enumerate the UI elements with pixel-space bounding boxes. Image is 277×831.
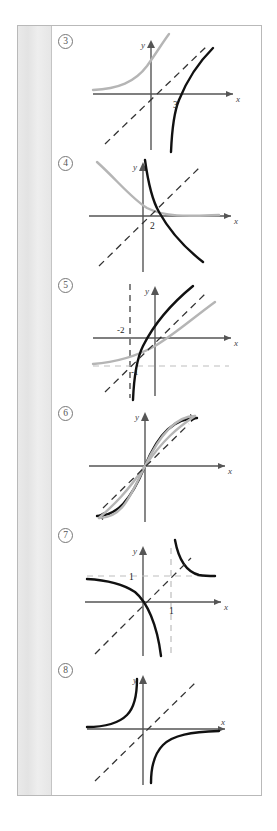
figure-item-5[interactable]: 5 x y -2 -1 <box>53 276 263 404</box>
figure-item-6[interactable]: 6 x y <box>53 404 263 526</box>
figure-item-3[interactable]: 3 x y 3 <box>53 32 263 154</box>
hyperbola-branch-upper-7 <box>175 540 215 576</box>
figure-marker-8: 8 <box>58 663 73 678</box>
figure-graph-3: x y 3 <box>73 32 263 154</box>
figure-item-8[interactable]: 8 x y <box>53 661 263 791</box>
figure-item-7[interactable]: 7 x y 1 1 <box>53 526 263 661</box>
x-axis-label-6: x <box>227 466 232 476</box>
tick-label-5-b: -1 <box>131 367 139 377</box>
x-axis-label-5: x <box>233 338 238 348</box>
worksheet-page: 3 x y 3 <box>17 25 262 796</box>
tick-label-7-a: 1 <box>129 572 134 582</box>
y-axis-label-5: y <box>144 286 149 296</box>
y-axis-label-3: y <box>140 40 145 50</box>
figure-marker-5: 5 <box>58 278 73 293</box>
x-axis-label-7: x <box>223 602 228 612</box>
x-axis-label-4: x <box>233 216 238 226</box>
figure-item-4[interactable]: 4 x y 2 <box>53 154 263 276</box>
figure-marker-4: 4 <box>58 156 73 171</box>
y-axis-label-7: y <box>132 546 137 556</box>
tick-label-4-a: 2 <box>150 221 155 231</box>
figure-graph-6: x y <box>73 404 263 526</box>
hyperbola-branch-lower-right-8 <box>151 731 219 783</box>
figure-marker-7: 7 <box>58 528 73 543</box>
page-footer-note <box>22 806 172 820</box>
figure-graph-8: x y <box>73 661 263 791</box>
figure-graph-5: x y -2 -1 <box>73 276 263 404</box>
axes-4: x y <box>89 162 238 272</box>
curve-gray-5 <box>93 302 215 364</box>
tick-label-7-b: 1 <box>169 606 174 616</box>
hyperbola-branch-lower-7 <box>87 579 161 656</box>
curve-black-6 <box>97 418 197 516</box>
identity-line-8 <box>95 683 195 781</box>
curve-gray-3 <box>93 34 169 90</box>
curve-black-5 <box>133 286 193 400</box>
y-axis-label-6: y <box>134 412 139 422</box>
figure-graph-4: x y 2 <box>73 154 263 276</box>
x-axis-label-3: x <box>235 94 240 104</box>
x-axis-label-8: x <box>220 717 225 727</box>
axes-5: x y <box>93 286 238 396</box>
page-gutter-strip <box>18 26 52 795</box>
figure-marker-3: 3 <box>58 34 73 49</box>
tick-label-3-a: 3 <box>173 100 178 110</box>
identity-line-3 <box>105 46 207 144</box>
y-axis-label-4: y <box>132 162 137 172</box>
tick-label-5-a: -2 <box>117 325 125 335</box>
figure-marker-6: 6 <box>58 406 73 421</box>
figure-graph-7: x y 1 1 <box>73 526 263 661</box>
figure-list: 3 x y 3 <box>53 26 261 795</box>
hyperbola-branch-upper-left-8 <box>87 679 137 727</box>
axes-7: x y <box>85 546 228 656</box>
axes-6: x y <box>89 412 232 522</box>
